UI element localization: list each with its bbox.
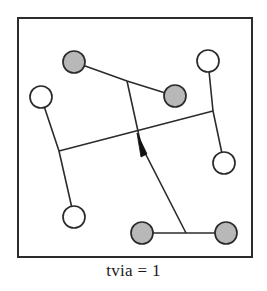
routing-diagram xyxy=(0,0,267,291)
terminal-node-t5 xyxy=(213,152,235,174)
terminal-node-t4 xyxy=(30,86,52,108)
figure-caption: tvia = 1 xyxy=(0,261,267,281)
terminal-node-t3 xyxy=(197,50,219,72)
terminal-node-t7 xyxy=(131,222,153,244)
terminal-node-t1 xyxy=(63,51,85,73)
terminal-node-t2 xyxy=(164,85,186,107)
terminal-node-t8 xyxy=(215,222,237,244)
terminal-node-t6 xyxy=(63,206,85,228)
figure-container: tvia = 1 xyxy=(0,0,267,291)
